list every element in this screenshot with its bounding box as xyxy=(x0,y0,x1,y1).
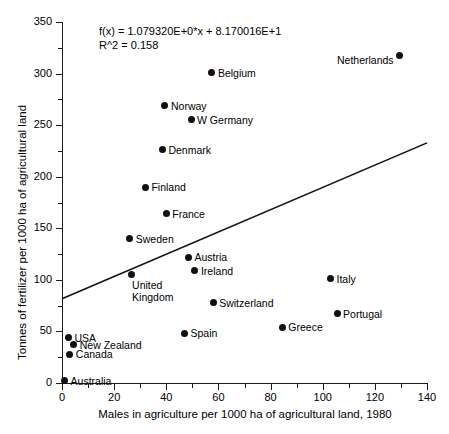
x-tick-major xyxy=(323,384,324,390)
data-point-label: Sweden xyxy=(136,233,174,245)
x-tick-label: 80 xyxy=(251,392,291,403)
data-point[interactable] xyxy=(334,310,341,317)
scatter-plot-figure: 050100150200250300350020406080100120140 … xyxy=(0,0,449,434)
data-point[interactable] xyxy=(279,324,286,331)
y-tick-major xyxy=(56,331,62,332)
y-tick-minor xyxy=(58,254,62,255)
x-tick-label: 60 xyxy=(198,392,238,403)
data-point-label: Spain xyxy=(191,327,218,339)
x-tick-major xyxy=(166,384,167,390)
data-point-label: United Kingdom xyxy=(132,279,173,303)
x-tick-label: 0 xyxy=(42,392,82,403)
x-tick-major xyxy=(218,384,219,390)
data-point[interactable] xyxy=(208,69,215,76)
y-tick-major xyxy=(56,280,62,281)
x-tick-major xyxy=(375,384,376,390)
data-point-label: Austria xyxy=(194,251,227,263)
data-point[interactable] xyxy=(191,267,198,274)
y-tick-minor xyxy=(58,151,62,152)
data-point-label: Switzerland xyxy=(219,297,273,309)
data-point[interactable] xyxy=(210,299,217,306)
x-tick-major xyxy=(62,384,63,390)
data-point[interactable] xyxy=(66,351,73,358)
data-point[interactable] xyxy=(327,275,334,282)
data-point-label: Australia xyxy=(71,375,112,387)
x-tick-minor xyxy=(401,384,402,388)
x-tick-minor xyxy=(297,384,298,388)
data-point[interactable] xyxy=(128,271,135,278)
y-axis-title: Tonnes of fertilizer per 1000 ha of agri… xyxy=(16,105,28,360)
x-tick-major xyxy=(114,384,115,390)
x-tick-major xyxy=(271,384,272,390)
x-tick-label: 40 xyxy=(146,392,186,403)
y-axis-line xyxy=(62,22,63,384)
x-tick-minor xyxy=(140,384,141,388)
data-point[interactable] xyxy=(396,52,403,59)
data-point[interactable] xyxy=(65,334,72,341)
y-tick-minor xyxy=(58,48,62,49)
data-point-label: W Germany xyxy=(197,114,253,126)
data-point[interactable] xyxy=(188,116,195,123)
y-tick-label: 300 xyxy=(0,68,52,79)
y-tick-minor xyxy=(58,203,62,204)
data-point[interactable] xyxy=(161,102,168,109)
data-point[interactable] xyxy=(181,330,188,337)
y-tick-label: 0 xyxy=(0,377,52,388)
y-tick-minor xyxy=(58,357,62,358)
data-point-label: Greece xyxy=(288,321,322,333)
data-point[interactable] xyxy=(142,184,149,191)
y-tick-minor xyxy=(58,306,62,307)
data-point-label: Netherlands xyxy=(320,54,394,66)
data-point-label: Portugal xyxy=(343,308,382,320)
x-tick-label: 140 xyxy=(407,392,447,403)
y-tick-major xyxy=(56,228,62,229)
data-point-label: Ireland xyxy=(201,265,233,277)
data-point-label: Norway xyxy=(171,100,207,112)
x-tick-minor xyxy=(192,384,193,388)
x-tick-minor xyxy=(245,384,246,388)
data-point-label: Belgium xyxy=(218,67,256,79)
r-squared-value: R^2 = 0.158 xyxy=(99,38,281,52)
data-point-label: Finland xyxy=(151,181,185,193)
data-point[interactable] xyxy=(159,146,166,153)
data-point-label: Denmark xyxy=(168,144,211,156)
data-point[interactable] xyxy=(163,210,170,217)
data-point[interactable] xyxy=(185,254,192,261)
y-tick-major xyxy=(56,177,62,178)
y-tick-major xyxy=(56,74,62,75)
y-tick-major xyxy=(56,125,62,126)
data-point-label: Italy xyxy=(337,273,356,285)
regression-equation: f(x) = 1.079320E+0*x + 8.170016E+1 xyxy=(99,24,281,38)
data-point[interactable] xyxy=(126,235,133,242)
data-point-label: France xyxy=(172,208,205,220)
y-tick-minor xyxy=(58,99,62,100)
x-tick-label: 20 xyxy=(94,392,134,403)
data-point-label: Canada xyxy=(76,348,113,360)
y-tick-label: 350 xyxy=(0,16,52,27)
x-tick-label: 100 xyxy=(303,392,343,403)
x-axis-title: Males in agriculture per 1000 ha of agri… xyxy=(62,408,428,420)
y-tick-major xyxy=(56,22,62,23)
x-tick-minor xyxy=(349,384,350,388)
regression-annotation: f(x) = 1.079320E+0*x + 8.170016E+1 R^2 =… xyxy=(99,24,281,52)
x-tick-label: 120 xyxy=(355,392,395,403)
x-tick-major xyxy=(427,384,428,390)
